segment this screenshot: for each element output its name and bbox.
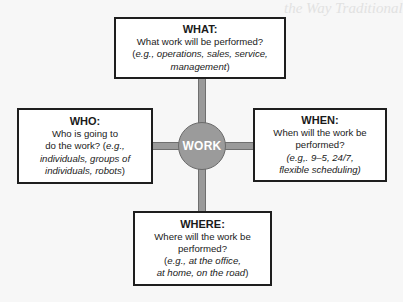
when-question-line1: When will the work be bbox=[255, 127, 385, 139]
work-label: WORK bbox=[182, 139, 221, 153]
who-heading: WHO: bbox=[19, 115, 151, 128]
who-box: WHO: Who is going to do the work? (e.g.,… bbox=[17, 108, 153, 184]
work-center-node: WORK bbox=[178, 122, 226, 170]
where-example-line2: at home, on the road) bbox=[135, 267, 270, 279]
when-example-line2: flexible scheduling) bbox=[255, 164, 385, 176]
what-question: What work will be performed? bbox=[116, 36, 284, 48]
what-box: WHAT: What work will be performed? (e.g.… bbox=[114, 17, 286, 79]
who-question-line2: do the work? (e.g., bbox=[19, 140, 151, 152]
where-example-line1: (e.g., at the office, bbox=[135, 255, 270, 267]
what-example-line2: management) bbox=[116, 61, 284, 73]
when-heading: WHEN: bbox=[255, 114, 385, 127]
connector-left bbox=[151, 142, 180, 150]
what-heading: WHAT: bbox=[116, 23, 284, 36]
where-heading: WHERE: bbox=[135, 218, 270, 231]
when-box: WHEN: When will the work be performed? (… bbox=[253, 108, 387, 182]
what-example: (e.g., operations, sales, service, bbox=[116, 48, 284, 60]
when-example-line1: (e.g,. 9–5, 24/7, bbox=[255, 152, 385, 164]
connector-right bbox=[224, 142, 254, 150]
who-question-line1: Who is going to bbox=[19, 128, 151, 140]
when-question-line2: performed? bbox=[255, 139, 385, 151]
where-question-line1: Where will the work be bbox=[135, 231, 270, 243]
where-question-line2: performed? bbox=[135, 243, 270, 255]
background-title: the Way Traditional Work is Done bbox=[0, 0, 403, 17]
connector-bottom bbox=[198, 168, 206, 212]
where-box: WHERE: Where will the work be performed?… bbox=[133, 211, 272, 286]
connector-top bbox=[198, 77, 206, 124]
who-example-line3: individuals, robots) bbox=[19, 165, 151, 177]
who-example-line2: individuals, groups of bbox=[19, 153, 151, 165]
